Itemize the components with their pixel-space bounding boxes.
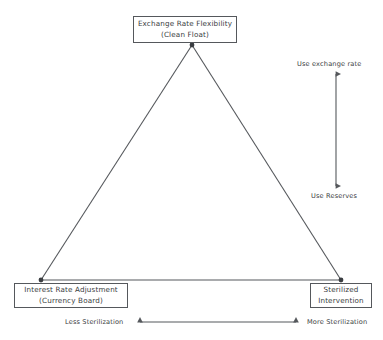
node-sterilized-intervention-line2: Intervention — [318, 296, 364, 307]
node-interest-rate-adjustment-line1: Interest Rate Adjustment — [24, 285, 118, 296]
node-sterilized-intervention[interactable]: Sterilized Intervention — [310, 283, 372, 308]
node-interest-rate-adjustment-line2: (Currency Board) — [39, 296, 103, 307]
vertex-dot-bottom-left — [39, 278, 44, 283]
triangle-edge-left — [41, 45, 192, 280]
vertex-dot-top — [190, 43, 195, 48]
vertex-dot-bottom-right — [339, 278, 344, 283]
node-exchange-rate-flexibility-line2: (Clean Float) — [161, 30, 209, 41]
diagram-canvas: Exchange Rate Flexibility (Clean Float) … — [0, 0, 383, 340]
node-exchange-rate-flexibility-line1: Exchange Rate Flexibility — [138, 19, 232, 30]
triangle-vertices — [39, 43, 344, 283]
triangle-edge-right — [192, 45, 341, 280]
vertical-axis-bottom-label: Use Reserves — [311, 192, 357, 200]
node-interest-rate-adjustment[interactable]: Interest Rate Adjustment (Currency Board… — [14, 283, 128, 308]
horizontal-axis-left-label: Less Sterilization — [65, 318, 123, 326]
vertical-axis-top-label: Use exchange rate — [297, 60, 361, 68]
node-sterilized-intervention-line1: Sterilized — [323, 285, 358, 296]
triangle-edges — [41, 45, 341, 280]
horizontal-axis-right-label: More Sterilization — [307, 318, 367, 326]
node-exchange-rate-flexibility[interactable]: Exchange Rate Flexibility (Clean Float) — [133, 16, 237, 43]
